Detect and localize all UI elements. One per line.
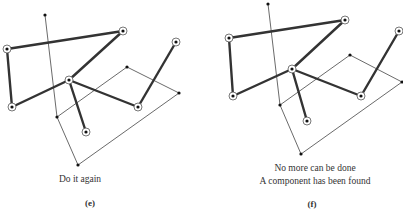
caption-line: Do it again (20, 173, 140, 186)
node-dot (227, 36, 230, 39)
node-dot (397, 29, 400, 32)
node-dot (84, 130, 87, 133)
node-dot (67, 78, 70, 81)
node-dot (174, 40, 177, 43)
thick-edge (138, 42, 176, 107)
thick-edge (292, 69, 361, 96)
node-dot (10, 105, 13, 108)
node-dot (121, 29, 124, 32)
node-dot (299, 152, 302, 155)
node-dot (136, 105, 139, 108)
node-dot (55, 115, 58, 118)
node-dot (43, 13, 46, 16)
panel-f-graph (225, 2, 403, 155)
panel-f-caption: No more can be done A component has been… (240, 162, 390, 188)
node-dot (305, 119, 308, 122)
thick-edge (229, 38, 233, 96)
node-dot (343, 18, 346, 21)
node-dot (359, 94, 362, 97)
node-dot (5, 47, 8, 50)
panel-e-caption: Do it again (20, 173, 140, 186)
panel-f-label: (f) (292, 199, 332, 209)
thick-edge (12, 80, 69, 107)
node-dot (266, 2, 269, 5)
node-dot (290, 67, 293, 70)
panel-e-label: (e) (70, 198, 110, 208)
node-dot (125, 65, 128, 68)
node-dot (76, 163, 79, 166)
thin-edge (268, 4, 280, 105)
panel-e-graph (3, 13, 181, 166)
thin-edge (57, 117, 78, 165)
node-dot (177, 91, 180, 94)
thick-edge (69, 80, 86, 132)
thin-edge (45, 15, 57, 117)
caption-line: No more can be done (240, 162, 390, 175)
node-dot (278, 103, 281, 106)
thin-edge (57, 67, 127, 117)
thick-edge (7, 49, 12, 107)
thin-edge (280, 55, 350, 105)
thick-edge (233, 69, 292, 96)
caption-line: A component has been found (240, 175, 390, 188)
node-dot (348, 53, 351, 56)
thin-edge (280, 105, 301, 154)
node-dot (231, 94, 234, 97)
